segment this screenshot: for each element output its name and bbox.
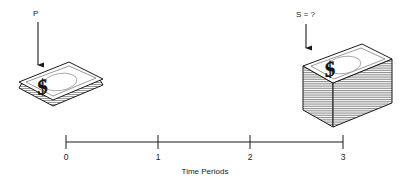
cash-flow-diagram: P $ S = ? bbox=[0, 0, 401, 180]
axis-caption: Time Periods bbox=[182, 167, 229, 176]
tick-label-2: 2 bbox=[248, 152, 253, 162]
dollar-sign-icon-future: $ bbox=[325, 56, 336, 83]
tick-label-1: 1 bbox=[156, 152, 161, 162]
present-cash-flow-group: P $ bbox=[19, 9, 103, 106]
future-label: S = ? bbox=[296, 10, 315, 19]
tick-label-3: 3 bbox=[341, 152, 346, 162]
axis-tick-1: 1 bbox=[156, 135, 161, 162]
tick-label-0: 0 bbox=[64, 152, 69, 162]
present-label: P bbox=[33, 9, 38, 18]
axis-tick-2: 2 bbox=[248, 135, 253, 162]
money-stack-icon-present: $ bbox=[19, 62, 103, 106]
timeline-axis: 0 1 2 3 Time Periods bbox=[64, 135, 346, 176]
dollar-sign-icon-present: $ bbox=[37, 74, 48, 101]
future-cash-flow-group: S = ? $ bbox=[296, 10, 392, 127]
axis-tick-3: 3 bbox=[341, 135, 346, 162]
axis-tick-0: 0 bbox=[64, 135, 69, 162]
money-stack-icon-future: $ bbox=[303, 44, 392, 127]
